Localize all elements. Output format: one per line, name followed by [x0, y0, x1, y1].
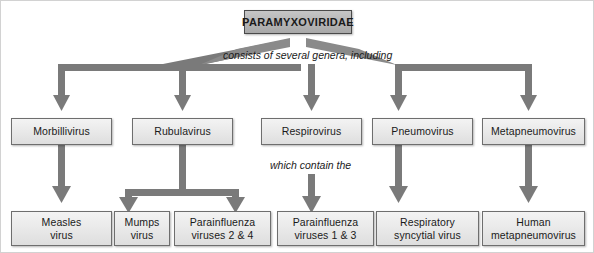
node-respiratory-syncytial-virus-line2: syncytial virus [391, 229, 464, 242]
node-respiratory-syncytial-virus: Respiratory syncytial virus [376, 211, 479, 246]
edge-label-genera: consists of several genera, including [223, 49, 392, 61]
stem-respirovirus-to-piv13 [308, 174, 315, 198]
node-parainfluenza-1-3: Parainfluenza viruses 1 & 3 [277, 211, 374, 246]
node-human-metapneumovirus-line2: metapneumovirus [488, 229, 579, 242]
stem-root-to-rubulavirus [179, 64, 186, 97]
node-parainfluenza-2-4-line1: Parainfluenza [187, 216, 259, 229]
node-measles-virus-line2: virus [47, 229, 76, 242]
split-bar-rubulavirus [125, 189, 239, 196]
arrowhead-measles [52, 186, 71, 203]
arrowhead-hmpv [519, 186, 538, 203]
node-metapneumovirus: Metapneumovirus [482, 118, 585, 145]
node-morbillivirus-label: Morbillivirus [30, 125, 93, 138]
node-mumps-virus-line1: Mumps [122, 216, 163, 229]
node-measles-virus-line1: Measles [39, 216, 85, 229]
edge-label-contain: which contain the [270, 159, 351, 171]
node-respirovirus: Respirovirus [261, 118, 362, 145]
stem-pneumovirus-to-rsv [395, 145, 402, 188]
arrowhead-respirovirus [303, 95, 320, 111]
arrowhead-rubulavirus [174, 95, 191, 111]
arrowhead-rsv [389, 186, 408, 203]
stem-root-to-respirovirus [308, 64, 315, 97]
node-respiratory-syncytial-virus-line1: Respiratory [397, 216, 458, 229]
node-measles-virus: Measles virus [11, 211, 112, 246]
stem-morbillivirus-to-measles [58, 145, 65, 188]
distribution-bar-right [395, 64, 532, 71]
node-pneumovirus: Pneumovirus [372, 118, 473, 145]
stem-root-to-metapneumovirus [525, 64, 532, 97]
arrowhead-metapneumovirus [520, 95, 537, 111]
node-morbillivirus: Morbillivirus [11, 118, 112, 145]
stem-root-to-pneumovirus [395, 64, 402, 97]
node-paramyxoviridae-label: PARAMYXOVIRIDAE [239, 16, 357, 29]
node-parainfluenza-1-3-line1: Parainfluenza [290, 216, 362, 229]
node-parainfluenza-2-4-line2: viruses 2 & 4 [189, 229, 257, 242]
node-rubulavirus-label: Rubulavirus [151, 125, 214, 138]
node-mumps-virus: Mumps virus [114, 211, 170, 246]
stem-metapneumovirus-to-hmpv [525, 145, 532, 188]
node-parainfluenza-1-3-line2: viruses 1 & 3 [292, 229, 360, 242]
node-pneumovirus-label: Pneumovirus [388, 125, 456, 138]
arrowhead-pneumovirus [390, 95, 407, 111]
stem-root-to-morbillivirus [58, 64, 65, 97]
taxonomy-diagram: PARAMYXOVIRIDAE consists of several gene… [0, 0, 594, 253]
node-rubulavirus: Rubulavirus [132, 118, 233, 145]
arrowhead-morbillivirus [53, 95, 70, 111]
node-human-metapneumovirus: Human metapneumovirus [482, 211, 585, 246]
stem-rubulavirus-down [179, 145, 186, 189]
node-respirovirus-label: Respirovirus [279, 125, 345, 138]
node-metapneumovirus-label: Metapneumovirus [488, 125, 579, 138]
node-mumps-virus-line2: virus [128, 229, 157, 242]
node-human-metapneumovirus-line1: Human [513, 216, 553, 229]
node-parainfluenza-2-4: Parainfluenza viruses 2 & 4 [174, 211, 271, 246]
node-paramyxoviridae: PARAMYXOVIRIDAE [244, 10, 352, 34]
